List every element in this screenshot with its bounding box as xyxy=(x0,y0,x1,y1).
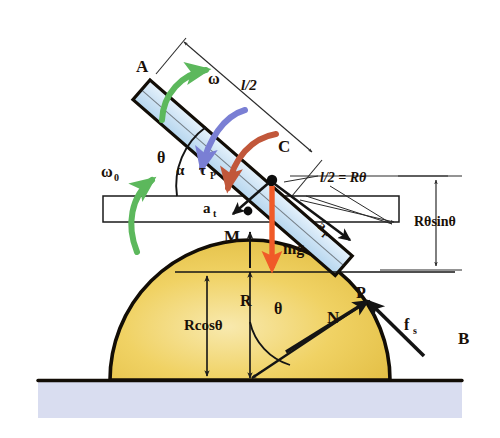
svg-text:0: 0 xyxy=(114,172,119,183)
label-weight: mg xyxy=(283,240,304,258)
label-height-dimension: Rθsinθ xyxy=(414,214,456,229)
label-radius-projection: Rcosθ xyxy=(184,317,223,333)
label-theta-dome: θ xyxy=(274,300,282,317)
label-normal-force: N xyxy=(327,308,340,327)
label-friction-force: f s xyxy=(404,316,417,336)
svg-text:f: f xyxy=(404,316,410,333)
diagram-svg: A ω l/2 C θ ω 0 α τ P a t a r l/2 = Rθ R… xyxy=(0,0,500,438)
svg-text:ω: ω xyxy=(101,163,113,180)
label-omega: ω xyxy=(208,70,220,87)
label-half-length: l/2 xyxy=(241,77,257,93)
svg-text:a: a xyxy=(203,200,211,216)
label-omega-zero: ω 0 xyxy=(101,163,119,183)
label-dome-body-B: B xyxy=(458,329,469,348)
pivot-dot xyxy=(244,207,253,216)
svg-text:s: s xyxy=(413,325,417,336)
physics-diagram-canvas: A ω l/2 C θ ω 0 α τ P a t a r l/2 = Rθ R… xyxy=(0,0,500,438)
center-of-mass-dot xyxy=(267,175,277,185)
label-point-P: P xyxy=(356,284,366,301)
svg-text:P: P xyxy=(210,170,216,181)
svg-text:τ: τ xyxy=(199,162,206,178)
label-arc-relation: l/2 = Rθ xyxy=(320,170,367,185)
label-point-C: C xyxy=(278,137,290,156)
label-point-A: A xyxy=(136,57,149,76)
label-theta-rod: θ xyxy=(157,149,165,166)
label-dome-mass: M xyxy=(224,227,240,246)
label-radius: R xyxy=(240,292,252,309)
ground-slab xyxy=(38,381,462,418)
label-alpha: α xyxy=(176,162,185,178)
